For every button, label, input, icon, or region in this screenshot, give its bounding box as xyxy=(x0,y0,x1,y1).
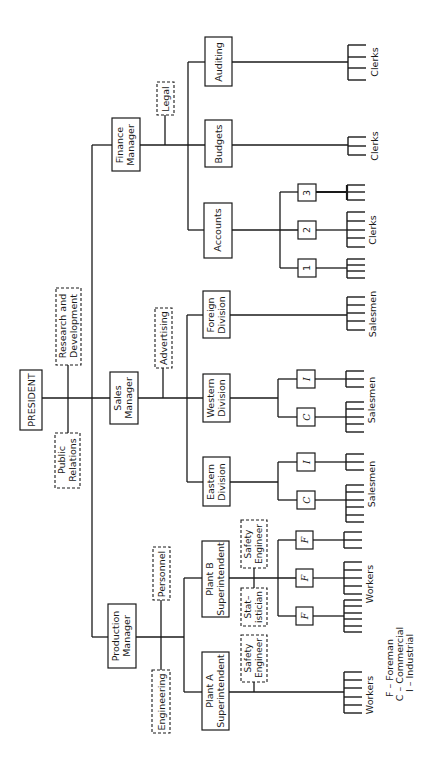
plant-b-label-line1: Plant B xyxy=(204,562,215,595)
node-eastern-commercial[interactable]: C xyxy=(297,491,315,509)
western-label-line1: Western xyxy=(205,379,216,418)
plant-a-safety-line1: Safety xyxy=(243,643,253,672)
comb-eastern-c-salesmen xyxy=(346,485,364,522)
western-c-label: C xyxy=(301,413,312,421)
comb-foreign-salesmen xyxy=(347,297,365,330)
node-public-relations[interactable]: Public Relations xyxy=(55,433,80,488)
node-legal[interactable]: Legal xyxy=(157,82,174,115)
node-accounts-3[interactable]: 3 xyxy=(298,184,316,201)
node-western-commercial[interactable]: C xyxy=(297,408,315,426)
pr-label-line1: Public xyxy=(56,446,67,474)
node-accounts-2[interactable]: 2 xyxy=(298,221,316,239)
clerks-label-accounts: Clerks xyxy=(367,215,378,245)
foreman-1-label: F xyxy=(299,536,310,544)
clerks-label-budgets: Clerks xyxy=(369,131,380,161)
auditing-label: Auditing xyxy=(213,42,224,82)
plant-b-safety-line1: Safety xyxy=(243,529,253,558)
rnd-label-line1: Research and xyxy=(57,294,68,358)
foreign-label-line1: Foreign xyxy=(205,297,216,332)
comb-accounts-3-clerks xyxy=(347,185,365,200)
foreign-label-line2: Division xyxy=(216,296,227,334)
comb-accounts-1-clerks xyxy=(347,259,365,278)
eastern-label-line1: Eastern xyxy=(205,464,216,500)
personnel-label: Personnel xyxy=(156,551,167,597)
comb-accounts-2-clerks xyxy=(347,212,365,247)
legal-label: Legal xyxy=(160,86,171,111)
node-eastern-industrial[interactable]: I xyxy=(297,453,315,471)
node-statistician[interactable]: Stat– istician xyxy=(241,588,267,626)
node-plant-b-safety-engineer[interactable]: Safety Engineer xyxy=(241,520,267,568)
node-plant-b-foreman-1[interactable]: F xyxy=(296,531,313,549)
foreman-3-label: F xyxy=(299,612,310,620)
comb-budgets-clerks xyxy=(348,137,366,155)
statistician-line1: Stat– xyxy=(243,595,253,618)
node-plant-b-foreman-2[interactable]: F xyxy=(296,569,313,587)
production-label-line1: Production xyxy=(110,611,121,662)
salesmen-label-foreign: Salesmen xyxy=(367,291,378,337)
node-personnel[interactable]: Personnel xyxy=(153,547,170,600)
subordinate-combs xyxy=(344,45,366,713)
salesmen-label-eastern: Salesmen xyxy=(366,461,377,507)
eastern-label-line2: Division xyxy=(216,463,227,501)
node-accounts[interactable]: Accounts xyxy=(204,203,232,258)
pr-label-line2: Relations xyxy=(67,438,78,482)
node-foreign-division[interactable]: Foreign Division xyxy=(203,291,230,338)
node-sales-manager[interactable]: Sales Manager xyxy=(110,372,138,424)
node-plant-a-safety-engineer[interactable]: Safety Engineer xyxy=(241,635,267,682)
plant-a-label-line1: Plant A xyxy=(204,674,215,708)
plant-b-safety-line2: Engineer xyxy=(254,524,264,564)
comb-plant-b-f3-workers xyxy=(344,600,362,632)
advertising-label: Advertising xyxy=(158,311,169,365)
accounts-1-label: 1 xyxy=(301,265,312,271)
legend-industrial: I – Industrial xyxy=(404,634,415,692)
plant-a-label-line2: Superintendent xyxy=(215,654,226,728)
comb-plant-a-workers xyxy=(344,672,362,713)
comb-plant-b-f1-workers xyxy=(344,532,362,548)
finance-label-line2: Manager xyxy=(125,124,136,166)
comb-plant-b-f2-workers xyxy=(344,562,362,594)
node-engineering[interactable]: Engineering xyxy=(152,670,170,733)
accounts-label: Accounts xyxy=(212,208,223,251)
org-chart: PRESIDENT Research and Development Publi… xyxy=(0,0,421,758)
comb-western-c-salesmen xyxy=(346,402,364,432)
node-plant-a-superintendent[interactable]: Plant A Superintendent xyxy=(202,652,229,730)
comb-eastern-i-salesmen xyxy=(346,454,364,470)
rnd-label-line2: Development xyxy=(68,294,79,358)
node-budgets[interactable]: Budgets xyxy=(205,120,232,167)
western-label-line2: Division xyxy=(216,379,227,417)
president-label: PRESIDENT xyxy=(26,373,37,427)
production-label-line2: Manager xyxy=(121,615,132,657)
node-plant-b-superintendent[interactable]: Plant B Superintendent xyxy=(202,541,229,617)
comb-auditing-clerks xyxy=(348,45,366,80)
node-finance-manager[interactable]: Finance Manager xyxy=(112,118,140,171)
accounts-3-label: 3 xyxy=(301,190,312,196)
budgets-label: Budgets xyxy=(213,124,224,163)
node-western-division[interactable]: Western Division xyxy=(203,374,230,422)
workers-label-plant-b: Workers xyxy=(364,565,375,603)
legend: F – Foreman C – Commercial I – Industria… xyxy=(384,627,415,701)
node-president[interactable]: PRESIDENT xyxy=(20,370,42,430)
eastern-c-label: C xyxy=(301,496,312,504)
eastern-i-label: I xyxy=(301,460,312,465)
plant-a-safety-line2: Engineer xyxy=(254,638,264,678)
node-plant-b-foreman-3[interactable]: F xyxy=(296,607,313,625)
workers-label-plant-a: Workers xyxy=(364,676,375,714)
clerks-label-auditing: Clerks xyxy=(369,47,380,77)
node-production-manager[interactable]: Production Manager xyxy=(108,604,136,668)
plant-b-label-line2: Superintendent xyxy=(215,542,226,616)
node-eastern-division[interactable]: Eastern Division xyxy=(203,457,230,506)
sales-label-line2: Manager xyxy=(123,377,134,419)
salesmen-label-western: Salesmen xyxy=(366,377,377,423)
node-auditing[interactable]: Auditing xyxy=(205,37,232,86)
statistician-line2: istician xyxy=(254,591,264,623)
comb-western-i-salesmen xyxy=(346,371,364,387)
sales-label-line1: Sales xyxy=(112,385,123,410)
node-western-industrial[interactable]: I xyxy=(297,370,315,388)
finance-label-line1: Finance xyxy=(114,127,125,163)
accounts-2-label: 2 xyxy=(301,227,312,233)
foreman-2-label: F xyxy=(299,574,310,582)
node-accounts-1[interactable]: 1 xyxy=(298,259,316,277)
node-research-and-development[interactable]: Research and Development xyxy=(56,288,81,365)
western-i-label: I xyxy=(301,377,312,382)
node-advertising[interactable]: Advertising xyxy=(155,308,172,368)
